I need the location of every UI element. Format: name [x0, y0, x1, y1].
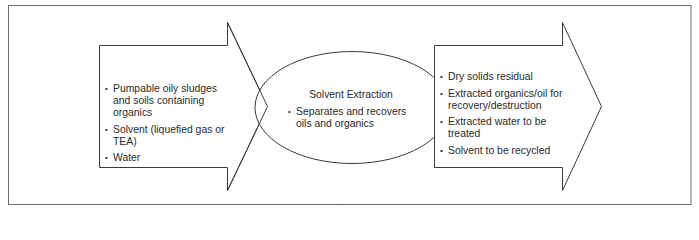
output-item-text: Extracted water to be treated: [448, 116, 546, 139]
input-item-text: Solvent (liquefied gas or TEA): [113, 124, 224, 147]
bullet-icon: •: [440, 88, 443, 100]
input-item: • Water: [105, 152, 230, 164]
output-item-text: Solvent to be recycled: [448, 145, 550, 156]
output-list: • Dry solids residual • Extracted organi…: [440, 71, 568, 161]
input-item: • Pumpable oily sludges and soils contai…: [105, 83, 230, 119]
output-item: • Dry solids residual: [440, 71, 568, 83]
input-item-text: Pumpable oily sludges and soils containi…: [113, 83, 217, 118]
process-item-text: Separates and recovers oils and organics: [296, 106, 406, 129]
bullet-icon: •: [440, 71, 443, 83]
process-text: Solvent Extraction • Separates and recov…: [288, 89, 414, 135]
bullet-icon: •: [105, 152, 108, 164]
output-item: • Extracted water to be treated: [440, 116, 568, 140]
bullet-icon: •: [440, 145, 443, 157]
bullet-icon: •: [440, 116, 443, 128]
process-title: Solvent Extraction: [288, 89, 414, 101]
input-list: • Pumpable oily sludges and soils contai…: [105, 83, 230, 169]
output-item-text: Extracted organics/oil for recovery/dest…: [448, 88, 562, 111]
input-item: • Solvent (liquefied gas or TEA): [105, 124, 230, 148]
output-item-text: Dry solids residual: [448, 71, 533, 82]
process-item: • Separates and recovers oils and organi…: [288, 106, 414, 130]
input-item-text: Water: [113, 152, 140, 163]
output-item: • Extracted organics/oil for recovery/de…: [440, 88, 568, 112]
bullet-icon: •: [105, 124, 108, 136]
bullet-icon: •: [288, 106, 291, 118]
bullet-icon: •: [105, 83, 108, 95]
output-item: • Solvent to be recycled: [440, 145, 568, 157]
